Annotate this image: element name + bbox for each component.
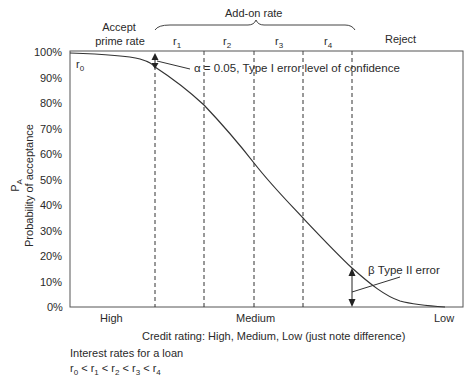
ytick: 60% [40, 149, 62, 160]
rate-band-dividers [155, 58, 352, 307]
alpha-arrow [152, 53, 191, 69]
r0-label: r0 [76, 59, 84, 70]
ylabel-symbol-sub: A [15, 179, 24, 184]
xtick-low: Low [434, 313, 454, 324]
rate-band-r3: r3 [275, 36, 283, 47]
accept-label: Accept [84, 22, 154, 33]
footnote-inequality: r0 < r1 < r2 < r3 < r4 [70, 363, 161, 374]
rate-band-r1: r1 [173, 36, 181, 47]
rate-band-r2: r2 [223, 36, 231, 47]
addon-rate-label: Add-on rate [225, 8, 282, 19]
beta-annotation: β Type II error [368, 265, 440, 277]
ytick: 20% [40, 251, 62, 262]
xtick-high: High [100, 313, 123, 324]
footnote-title: Interest rates for a loan [70, 348, 183, 359]
addon-brace [155, 20, 355, 30]
ytick: 90% [40, 73, 62, 84]
top-ticks [204, 51, 352, 55]
ytick: 0% [47, 302, 63, 313]
ytick: 100% [34, 47, 62, 58]
x-axis-label: Credit rating: High, Medium, Low (just n… [142, 331, 405, 342]
reject-label: Reject [385, 34, 416, 45]
ytick: 80% [40, 98, 62, 109]
ytick: 50% [40, 175, 62, 186]
ytick: 10% [40, 277, 62, 288]
ytick: 40% [40, 200, 62, 211]
ylabel-symbol: P [9, 185, 21, 192]
xtick-medium: Medium [236, 313, 275, 324]
y-axis-label: PA Probability of acceptance [9, 106, 36, 266]
ylabel-text: Probability of acceptance [23, 106, 36, 266]
ytick: 70% [40, 124, 62, 135]
ytick: 30% [40, 226, 62, 237]
rate-band-r4: r4 [324, 36, 332, 47]
prime-rate-label: prime rate [80, 36, 160, 47]
alpha-annotation: α = 0.05, Type I error level of confiden… [194, 63, 400, 75]
